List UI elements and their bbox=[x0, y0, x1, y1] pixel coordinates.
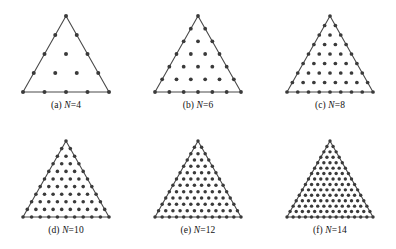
interior-node-dot bbox=[77, 192, 81, 196]
boundary-node-dot bbox=[210, 90, 214, 94]
interior-node-dot bbox=[313, 209, 316, 212]
triangle-outline bbox=[23, 141, 109, 217]
boundary-node-dot bbox=[175, 215, 179, 219]
interior-node-dot bbox=[193, 158, 197, 162]
boundary-node-dot bbox=[73, 215, 77, 219]
interior-node-dot bbox=[171, 196, 175, 200]
boundary-node-dot bbox=[316, 161, 319, 164]
interior-node-dot bbox=[341, 204, 344, 207]
boundary-node-dot bbox=[43, 177, 47, 181]
interior-node-dot bbox=[196, 164, 200, 168]
interior-node-dot bbox=[218, 77, 222, 81]
interior-node-dot bbox=[178, 196, 182, 200]
interior-node-dot bbox=[211, 189, 215, 193]
interior-node-dot bbox=[64, 169, 68, 173]
boundary-node-dot bbox=[334, 24, 338, 28]
interior-node-dot bbox=[193, 208, 197, 212]
interior-node-dot bbox=[328, 150, 331, 153]
interior-node-dot bbox=[186, 183, 190, 187]
interior-node-dot bbox=[344, 199, 347, 202]
boundary-node-dot bbox=[168, 189, 172, 193]
interior-node-dot bbox=[344, 62, 348, 66]
boundary-node-dot bbox=[210, 39, 214, 43]
boundary-node-dot bbox=[353, 182, 356, 185]
interior-node-dot bbox=[334, 43, 338, 47]
panel-caption-tag: (a) bbox=[51, 100, 62, 110]
interior-node-dot bbox=[356, 209, 359, 212]
boundary-node-dot bbox=[371, 90, 375, 94]
boundary-node-dot bbox=[196, 139, 200, 143]
boundary-node-dot bbox=[301, 62, 305, 66]
boundary-node-dot bbox=[203, 151, 207, 155]
boundary-node-dot bbox=[221, 183, 225, 187]
boundary-node-dot bbox=[339, 90, 343, 94]
interior-node-dot bbox=[301, 81, 305, 85]
interior-node-dot bbox=[322, 171, 325, 174]
boundary-node-dot bbox=[341, 215, 344, 218]
boundary-node-dot bbox=[30, 215, 34, 219]
interior-node-dot bbox=[298, 204, 301, 207]
boundary-node-dot bbox=[350, 90, 354, 94]
interior-node-dot bbox=[81, 200, 85, 204]
boundary-node-dot bbox=[341, 161, 344, 164]
boundary-node-dot bbox=[47, 215, 51, 219]
interior-node-dot bbox=[38, 200, 42, 204]
boundary-node-dot bbox=[334, 150, 337, 153]
interior-node-dot bbox=[334, 193, 337, 196]
boundary-node-dot bbox=[90, 184, 94, 188]
boundary-node-dot bbox=[339, 33, 343, 37]
interior-node-dot bbox=[196, 202, 200, 206]
interior-node-dot bbox=[34, 207, 38, 211]
boundary-node-dot bbox=[64, 139, 68, 143]
interior-node-dot bbox=[64, 52, 68, 56]
boundary-node-dot bbox=[73, 154, 77, 158]
interior-node-dot bbox=[317, 52, 321, 56]
interior-node-dot bbox=[200, 196, 204, 200]
boundary-node-dot bbox=[182, 90, 186, 94]
interior-node-dot bbox=[328, 52, 332, 56]
boundary-node-dot bbox=[30, 200, 34, 204]
interior-node-dot bbox=[313, 199, 316, 202]
interior-node-dot bbox=[341, 182, 344, 185]
interior-node-dot bbox=[301, 199, 304, 202]
boundary-node-dot bbox=[328, 90, 332, 94]
boundary-node-dot bbox=[182, 39, 186, 43]
boundary-node-dot bbox=[350, 52, 354, 56]
boundary-node-dot bbox=[239, 215, 243, 219]
boundary-node-dot bbox=[182, 215, 186, 219]
boundary-node-dot bbox=[164, 196, 168, 200]
triangle-lattice-diagram bbox=[267, 133, 393, 225]
triangle-lattice-diagram bbox=[135, 8, 261, 100]
boundary-node-dot bbox=[366, 81, 370, 85]
boundary-node-dot bbox=[225, 215, 229, 219]
boundary-node-dot bbox=[77, 162, 81, 166]
boundary-node-dot bbox=[322, 150, 325, 153]
boundary-node-dot bbox=[239, 90, 243, 94]
panel-caption-value: 6 bbox=[208, 100, 213, 110]
interior-node-dot bbox=[73, 169, 77, 173]
boundary-node-dot bbox=[90, 215, 94, 219]
interior-node-dot bbox=[168, 202, 172, 206]
interior-node-dot bbox=[316, 204, 319, 207]
panel-caption: (c) N=8 bbox=[315, 101, 345, 111]
boundary-node-dot bbox=[359, 193, 362, 196]
interior-node-dot bbox=[207, 196, 211, 200]
panel-caption-tag: (f) bbox=[313, 225, 323, 235]
interior-node-dot bbox=[331, 177, 334, 180]
boundary-node-dot bbox=[225, 65, 229, 69]
boundary-node-dot bbox=[298, 215, 301, 218]
boundary-node-dot bbox=[86, 52, 90, 56]
interior-node-dot bbox=[186, 196, 190, 200]
boundary-node-dot bbox=[304, 182, 307, 185]
interior-node-dot bbox=[189, 177, 193, 181]
interior-node-dot bbox=[347, 204, 350, 207]
boundary-node-dot bbox=[196, 90, 200, 94]
boundary-node-dot bbox=[189, 27, 193, 31]
interior-node-dot bbox=[338, 199, 341, 202]
boundary-node-dot bbox=[38, 184, 42, 188]
interior-node-dot bbox=[312, 81, 316, 85]
triangle-lattice-diagram bbox=[135, 133, 261, 225]
interior-node-dot bbox=[319, 199, 322, 202]
interior-node-dot bbox=[203, 164, 207, 168]
interior-node-dot bbox=[344, 188, 347, 191]
